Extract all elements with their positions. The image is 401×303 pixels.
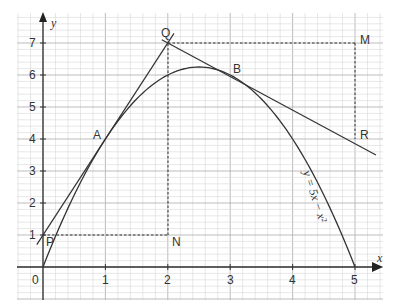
graph-figure: P A Q N B M R y x 0 1 2 3 4 5 1 2 3 4 5 … (0, 0, 401, 303)
y-tick-5: 5 (29, 100, 36, 114)
point-label-Q: Q (161, 26, 170, 40)
axis-ticks (40, 43, 355, 270)
point-label-A: A (93, 128, 101, 142)
x-tick-5: 5 (351, 273, 358, 287)
y-tick-4: 4 (29, 132, 36, 146)
point-label-R: R (360, 128, 369, 142)
y-tick-7: 7 (29, 36, 36, 50)
x-tick-3: 3 (227, 273, 234, 287)
x-tick-2: 2 (164, 273, 171, 287)
y-tick-2: 2 (29, 196, 36, 210)
x-tick-1: 1 (102, 273, 109, 287)
point-label-B: B (233, 62, 241, 76)
point-label-N: N (172, 235, 181, 249)
point-label-M: M (360, 33, 370, 47)
point-label-P: P (46, 235, 54, 249)
x-tick-4: 4 (289, 273, 296, 287)
y-tick-1: 1 (29, 228, 36, 242)
y-axis-arrow-icon (39, 12, 47, 22)
y-tick-6: 6 (29, 68, 36, 82)
parabola-curve (43, 67, 355, 267)
tangent-line-B (162, 40, 376, 155)
y-axis-label: y (50, 16, 57, 30)
y-tick-3: 3 (29, 164, 36, 178)
origin-label: 0 (32, 273, 39, 287)
grid-paper (17, 13, 383, 300)
x-axis-label: x (376, 251, 383, 265)
